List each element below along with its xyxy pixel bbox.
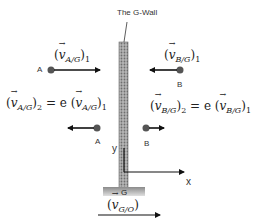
ball-b-top	[177, 67, 184, 74]
ball-a-top-label: A	[37, 65, 42, 74]
ball-a-bottom-label: A	[95, 137, 100, 146]
velocity-label-b-top: (vB/G)1	[164, 48, 200, 64]
wall-base-label: G	[121, 188, 127, 197]
ball-b-top-label: B	[177, 80, 182, 89]
velocity-label-a-top: (vA/G)1	[54, 48, 90, 64]
y-axis-label: y	[112, 143, 117, 154]
ball-b-bottom-label: B	[144, 139, 149, 148]
x-axis-label: x	[186, 176, 191, 187]
ball-b-bottom	[143, 125, 150, 132]
wall-title: The G-Wall	[117, 8, 157, 17]
ball-a-top	[48, 67, 55, 74]
ground-velocity-label: (vG/O)	[107, 198, 139, 214]
equation-a: (vA/G)2 = e (vA/G)1	[6, 96, 107, 112]
title-leader-line	[124, 22, 127, 42]
equation-b: (vB/G)2 = e (vB/G)1	[150, 99, 251, 115]
ball-a-bottom	[94, 125, 101, 132]
